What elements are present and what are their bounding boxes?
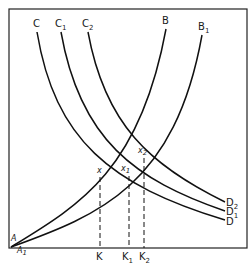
- curve-c2-d2: [88, 32, 225, 202]
- label-c2: C2: [82, 18, 93, 32]
- curve-a1-b1: [11, 35, 202, 247]
- label-x: x: [96, 166, 102, 175]
- label-c: C: [33, 18, 40, 29]
- label-k2: K2: [139, 251, 150, 265]
- label-b1: B1: [198, 21, 209, 35]
- label-k1: K1: [122, 251, 133, 265]
- diagram-canvas: C C1 C2 B B1 D2 D1 D x x1 x2 K K1 K2 A A…: [0, 0, 250, 266]
- label-x1: x1: [120, 164, 130, 175]
- label-b: B: [162, 15, 169, 26]
- label-a: A: [10, 234, 16, 243]
- label-k: K: [96, 251, 103, 262]
- label-x2: x2: [137, 146, 148, 157]
- label-d: D: [226, 216, 234, 227]
- label-c1: C1: [55, 18, 66, 32]
- curve-c1-d1: [61, 32, 225, 211]
